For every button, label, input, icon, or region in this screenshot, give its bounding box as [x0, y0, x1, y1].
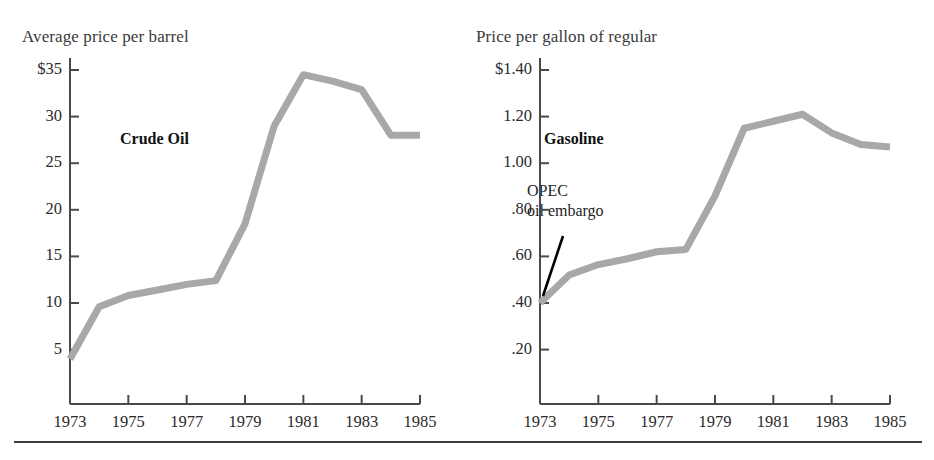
y-tick-label: 25: [0, 152, 62, 172]
x-tick-label: 1975: [98, 412, 158, 432]
x-tick-label: 1983: [802, 412, 862, 432]
x-tick-label: 1979: [685, 412, 745, 432]
x-tick-label: 1977: [157, 412, 217, 432]
crude-oil-plot: [0, 0, 467, 445]
y-tick-label: .40: [468, 292, 532, 312]
x-tick-label: 1985: [390, 412, 450, 432]
gasoline-data-line: [540, 114, 890, 303]
y-tick-label: .60: [468, 245, 532, 265]
y-tick-label: 15: [0, 245, 62, 265]
x-tick-label: 1973: [40, 412, 100, 432]
x-tick-label: 1981: [273, 412, 333, 432]
x-tick-label: 1975: [568, 412, 628, 432]
chart-panel-crude-oil: Average price per barrel Crude Oil $3530…: [0, 0, 467, 445]
y-tick-label: 5: [0, 339, 62, 359]
bottom-divider-rule: [14, 441, 922, 443]
x-tick-label: 1977: [627, 412, 687, 432]
x-tick-label: 1981: [743, 412, 803, 432]
y-tick-marks: [70, 70, 79, 350]
x-tick-marks: [70, 395, 420, 404]
x-tick-label: 1983: [332, 412, 392, 432]
y-tick-label: 30: [0, 106, 62, 126]
chart-panel-gasoline: Price per gallon of regular Gasoline OPE…: [467, 0, 934, 445]
x-tick-label: 1985: [860, 412, 920, 432]
x-tick-label: 1979: [215, 412, 275, 432]
crude-oil-data-line: [70, 75, 420, 359]
y-tick-marks: [540, 70, 549, 350]
y-tick-label: .80: [468, 199, 532, 219]
y-tick-label: $1.40: [468, 59, 532, 79]
y-tick-label: 1.20: [468, 106, 532, 126]
gasoline-plot: [467, 0, 934, 445]
y-tick-label: .20: [468, 339, 532, 359]
x-tick-marks: [540, 395, 890, 404]
y-tick-label: 1.00: [468, 152, 532, 172]
x-tick-label: 1973: [510, 412, 570, 432]
y-tick-label: $35: [0, 59, 62, 79]
y-tick-label: 20: [0, 199, 62, 219]
y-tick-label: 10: [0, 292, 62, 312]
dual-line-chart-figure: Average price per barrel Crude Oil $3530…: [0, 0, 934, 460]
